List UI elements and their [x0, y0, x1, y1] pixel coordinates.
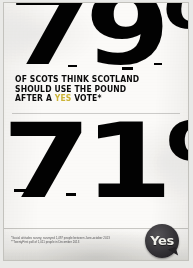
yes-campaign-logo: Yes — [145, 224, 179, 258]
ink-speck — [68, 65, 77, 67]
footnote-line: **TwentyFirst poll of 1,011 people in De… — [11, 240, 137, 244]
ink-speck — [14, 189, 30, 192]
ink-speck — [66, 193, 76, 196]
stat-caption-1: OF SCOTS THINK SCOTLAND SHOULD USE THE P… — [15, 75, 139, 104]
yes-logo-label: Yes — [145, 223, 179, 257]
poster-canvas: 79% OF SCOTS THINK SCOTLAND SHOULD USE T… — [0, 0, 193, 268]
poster-sheet: 79% OF SCOTS THINK SCOTLAND SHOULD USE T… — [3, 2, 189, 261]
stat-panel-1: 79% OF SCOTS THINK SCOTLAND SHOULD USE T… — [4, 3, 188, 111]
ink-speck — [122, 67, 133, 70]
stat-panel-2: 71% OF PEOPLE IN THE RUK THINK AN INDEPE… — [4, 115, 188, 225]
ink-speck — [150, 187, 162, 190]
stat-figure-79: 79% — [8, 2, 189, 66]
footnotes-block: *Social attitudes survey, surveyed 1,497… — [11, 236, 137, 244]
ink-speck — [30, 59, 44, 62]
ink-speck — [154, 63, 162, 65]
poster-footer: *Social attitudes survey, surveyed 1,497… — [4, 228, 188, 260]
panel-divider — [12, 113, 180, 114]
